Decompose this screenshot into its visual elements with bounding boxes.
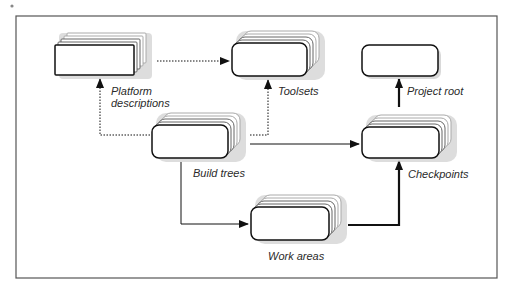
node-box-platform — [55, 45, 134, 75]
label-platform-line1: Platform — [111, 85, 152, 97]
edge-build-trees-to-toolsets — [250, 80, 268, 135]
node-box-project-root — [362, 45, 438, 76]
nodes-layer — [55, 31, 457, 244]
node-checkpoints — [362, 115, 457, 162]
corner-speck — [10, 4, 13, 7]
node-work-areas — [251, 195, 347, 244]
node-platform — [55, 33, 152, 79]
label-toolsets: Toolsets — [278, 85, 319, 97]
node-toolsets — [232, 31, 325, 80]
node-project-root — [362, 45, 441, 79]
edge-work-areas-to-checkpoints — [348, 161, 399, 225]
node-box-checkpoints — [362, 127, 439, 158]
label-platform-line2: descriptions — [111, 97, 170, 109]
node-box-toolsets — [232, 43, 307, 76]
label-checkpoints: Checkpoints — [408, 168, 469, 180]
label-build-trees: Build trees — [193, 167, 245, 179]
diagram-canvas: Platform descriptions Toolsets Project r… — [0, 0, 508, 286]
label-project-root: Project root — [407, 85, 464, 97]
node-box-build-trees — [152, 125, 228, 158]
node-build-trees — [152, 113, 246, 162]
label-work-areas: Work areas — [268, 250, 325, 262]
node-box-work-areas — [251, 207, 329, 240]
